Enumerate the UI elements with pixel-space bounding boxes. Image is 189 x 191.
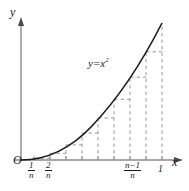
tick-label-two-over-n: 2 n — [45, 161, 52, 181]
y-axis-label: y — [10, 6, 15, 18]
origin-label: O — [13, 154, 22, 166]
fraction-numerator: 2 — [45, 161, 52, 170]
y-axis — [18, 17, 24, 160]
tick-label-one: 1 — [158, 163, 163, 174]
tick-label-n-minus-one-over-n: n−1 n — [124, 161, 141, 181]
fraction-denominator: n — [124, 170, 141, 180]
fraction-numerator: 1 — [28, 161, 35, 170]
fraction-numerator: n−1 — [124, 161, 141, 170]
parabola-curve — [21, 23, 162, 160]
riemann-sum-figure: y x O y=x2 1 n 2 n n−1 n 1 — [0, 0, 189, 191]
curve-equation-exponent: 2 — [105, 56, 109, 64]
tick-label-one-over-n: 1 n — [28, 161, 35, 181]
partition-dashed-lines — [34, 23, 162, 160]
x-axis-label: x — [172, 156, 177, 168]
curve-equation-base: y=x — [88, 57, 105, 69]
fraction-denominator: n — [45, 170, 52, 180]
curve-equation-label: y=x2 — [88, 57, 109, 69]
fraction-denominator: n — [28, 170, 35, 180]
